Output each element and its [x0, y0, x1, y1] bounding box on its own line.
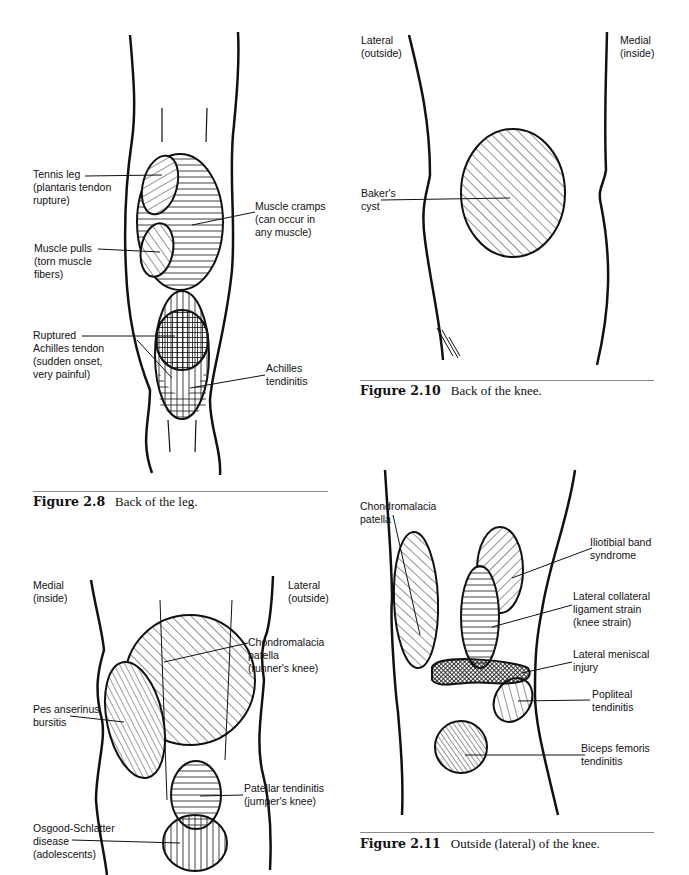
label-lateral-outside: Lateral (outside) [288, 579, 329, 605]
caption-text: Back of the leg. [115, 494, 197, 509]
label-iliotibial-band: Iliotibial band syndrome [590, 536, 651, 562]
caption-number: Figure 2.10 [360, 383, 441, 398]
label-lateral-collateral-ligament: Lateral collateral ligament strain (knee… [573, 590, 650, 629]
label-chondromalacia-patella: Chondromalacia patella [360, 500, 436, 526]
figure-2-8-drawing [125, 32, 238, 475]
label-patellar-tendinitis: Patellar tendinitis (jumper's knee) [244, 782, 324, 808]
figure-2-9-drawing [91, 576, 273, 875]
label-ruptured-achilles: Ruptured Achilles tendon (sudden onset, … [33, 329, 104, 381]
label-medial-inside: Medial (inside) [620, 34, 654, 60]
figure-2-11-caption: Figure 2.11Outside (lateral) of the knee… [360, 836, 600, 852]
caption-text: Back of the knee. [451, 383, 542, 398]
label-bakers-cyst: Baker's cyst [361, 187, 396, 213]
caption-text: Outside (lateral) of the knee. [451, 836, 600, 851]
figure-2-8-caption: Figure 2.8Back of the leg. [33, 494, 197, 510]
caption-number: Figure 2.11 [360, 836, 441, 851]
figure-2-10-rule [360, 380, 654, 381]
label-popliteal-tendinitis: Popliteal tendinitis [592, 688, 633, 714]
label-tennis-leg: Tennis leg (plantaris tendon rupture) [33, 168, 111, 207]
caption-number: Figure 2.8 [33, 494, 105, 509]
label-lateral-outside: Lateral (outside) [361, 34, 402, 60]
label-osgood-schlatter: Osgood-Schlatter disease (adolescents) [33, 822, 115, 861]
label-pes-anserinus-bursitis: Pes anserinus bursitis [33, 703, 100, 729]
label-muscle-cramps: Muscle cramps (can occur in any muscle) [255, 200, 326, 239]
label-muscle-pulls: Muscle pulls (torn muscle fibers) [34, 242, 92, 281]
figure-2-10-caption: Figure 2.10Back of the knee. [360, 383, 542, 399]
label-chondromalacia-patella: Chondromalacia patella (runner's knee) [248, 636, 324, 675]
label-lateral-meniscal-injury: Lateral meniscal injury [573, 648, 649, 674]
label-biceps-femoris-tendinitis: Biceps femoris tendinitis [581, 742, 650, 768]
label-medial-inside: Medial (inside) [33, 579, 67, 605]
figure-2-11-rule [360, 832, 654, 833]
figure-2-8-rule [33, 491, 328, 492]
label-achilles-tendinitis: Achilles tendinitis [266, 362, 307, 388]
